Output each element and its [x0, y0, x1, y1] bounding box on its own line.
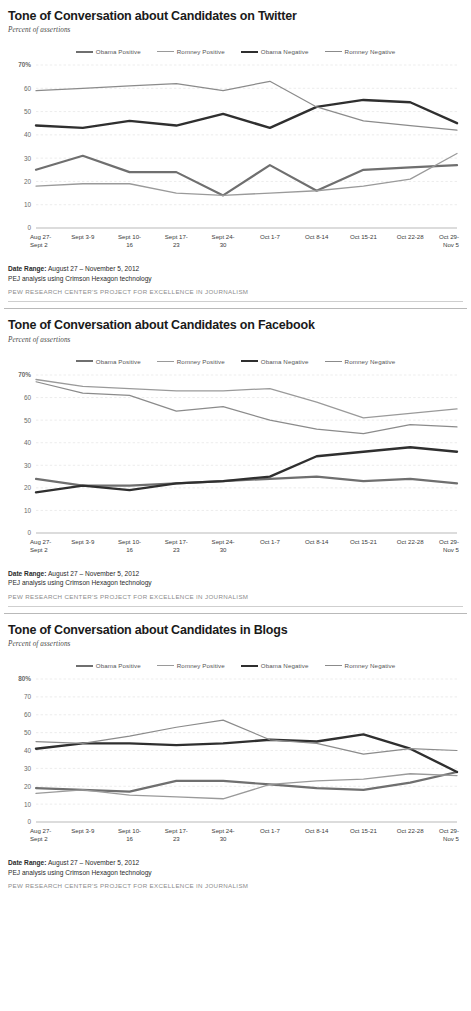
- y-axis-tick-label: 0: [27, 529, 31, 536]
- x-axis-tick-label: Oct 8-14: [305, 538, 329, 545]
- legend-swatch-romney-positive: [157, 665, 174, 666]
- x-axis-tick-label: Oct 22-28: [397, 827, 424, 834]
- x-axis-tick-label: Nov 5: [443, 835, 460, 842]
- legend-item-obama-negative[interactable]: Obama Negative: [241, 48, 309, 55]
- y-axis-tick-label: 20: [24, 783, 32, 790]
- x-axis-tick-label: 16: [126, 241, 133, 248]
- x-axis-tick-label: Oct 29-: [439, 233, 459, 240]
- chart-subtitle-facebook: Percent of assertions: [8, 336, 465, 344]
- chart-panel-blogs: Tone of Conversation about Candidates in…: [0, 623, 471, 891]
- chart-legend-blogs: Obama Positive Romney Positive Obama Neg…: [14, 662, 465, 669]
- panel-divider-1: [4, 308, 467, 309]
- plot-area-twitter: 010203040506070%Aug 27-Sept 2Sept 3-9Sep…: [6, 57, 465, 262]
- y-axis-tick-label: 40: [24, 132, 32, 139]
- legend-item-romney-positive[interactable]: Romney Positive: [157, 358, 225, 365]
- legend-item-romney-negative[interactable]: Romney Negative: [325, 48, 396, 55]
- y-axis-tick-label: 40: [24, 747, 32, 754]
- x-axis-tick-label: 30: [220, 835, 227, 842]
- x-axis-tick-label: Oct 8-14: [305, 827, 329, 834]
- legend-item-romney-positive[interactable]: Romney Positive: [157, 48, 225, 55]
- x-axis-tick-label: 30: [220, 241, 227, 248]
- x-axis-tick-label: 16: [126, 545, 133, 552]
- x-axis-tick-label: 23: [173, 835, 180, 842]
- methodology-blogs: PEJ analysis using Crimson Hexagon techn…: [8, 868, 465, 878]
- y-axis-tick-label: 70%: [18, 62, 31, 69]
- attribution-twitter: PEW RESEARCH CENTER'S PROJECT FOR EXCELL…: [8, 288, 465, 295]
- legend-swatch-romney-negative: [325, 51, 342, 52]
- date-range-value-facebook: August 27 – November 5, 2012: [48, 570, 139, 577]
- x-axis-tick-label: Oct 1-7: [260, 827, 281, 834]
- legend-swatch-obama-negative: [241, 360, 258, 362]
- x-axis-tick-label: Oct 29-: [439, 827, 459, 834]
- x-axis-tick-label: Sept 3-9: [71, 233, 95, 240]
- x-axis-tick-label: Oct 22-28: [397, 538, 424, 545]
- y-axis-tick-label: 50: [24, 108, 32, 115]
- source-block-facebook: Date Range: August 27 – November 5, 2012…: [8, 569, 465, 602]
- series-line-romney-negative: [36, 720, 457, 754]
- y-axis-tick-label: 50: [24, 416, 32, 423]
- legend-item-obama-positive[interactable]: Obama Positive: [76, 358, 141, 365]
- series-line-romney-negative: [36, 82, 457, 131]
- date-range-value-twitter: August 27 – November 5, 2012: [48, 265, 139, 272]
- x-axis-tick-label: Oct 15-21: [350, 827, 377, 834]
- x-axis-tick-label: Sept 17-: [165, 233, 188, 240]
- y-axis-tick-label: 60: [24, 394, 32, 401]
- legend-label-obama-positive: Obama Positive: [96, 48, 141, 55]
- legend-label-romney-positive: Romney Positive: [177, 48, 225, 55]
- x-axis-tick-label: 16: [126, 835, 133, 842]
- date-range-value-blogs: August 27 – November 5, 2012: [48, 859, 139, 866]
- legend-label-obama-negative: Obama Negative: [261, 662, 309, 669]
- x-axis-tick-label: Sept 24-: [212, 233, 235, 240]
- y-axis-tick-label: 30: [24, 462, 32, 469]
- legend-item-obama-negative[interactable]: Obama Negative: [241, 358, 309, 365]
- chart-legend-twitter: Obama Positive Romney Positive Obama Neg…: [14, 48, 465, 55]
- x-axis-tick-label: Nov 5: [443, 545, 460, 552]
- legend-label-romney-negative: Romney Negative: [345, 48, 396, 55]
- y-axis-tick-label: 10: [24, 507, 32, 514]
- legend-swatch-obama-positive: [76, 665, 93, 667]
- date-range-facebook: Date Range: August 27 – November 5, 2012: [8, 569, 465, 579]
- y-axis-tick-label: 10: [24, 801, 32, 808]
- legend-swatch-obama-positive: [76, 51, 93, 53]
- x-axis-tick-label: Sept 24-: [212, 538, 235, 545]
- y-axis-tick-label: 70%: [18, 371, 31, 378]
- x-axis-tick-label: Sept 10-: [118, 538, 141, 545]
- legend-swatch-obama-negative: [241, 665, 258, 667]
- legend-swatch-romney-negative: [325, 361, 342, 362]
- chart-legend-facebook: Obama Positive Romney Positive Obama Neg…: [14, 358, 465, 365]
- x-axis-tick-label: Oct 15-21: [350, 538, 377, 545]
- y-axis-tick-label: 0: [27, 225, 31, 232]
- attribution-facebook: PEW RESEARCH CENTER'S PROJECT FOR EXCELL…: [8, 593, 465, 600]
- legend-label-obama-negative: Obama Negative: [261, 48, 309, 55]
- x-axis-tick-label: Sept 10-: [118, 233, 141, 240]
- y-axis-tick-label: 50: [24, 729, 32, 736]
- y-axis-tick-label: 30: [24, 765, 32, 772]
- methodology-facebook: PEJ analysis using Crimson Hexagon techn…: [8, 578, 465, 588]
- x-axis-tick-label: Oct 22-28: [397, 233, 424, 240]
- date-range-label-twitter: Date Range:: [8, 265, 46, 272]
- date-range-label-facebook: Date Range:: [8, 570, 46, 577]
- y-axis-tick-label: 20: [24, 178, 32, 185]
- legend-label-obama-positive: Obama Positive: [96, 662, 141, 669]
- series-line-obama-positive: [36, 156, 457, 196]
- line-chart-twitter: 010203040506070%Aug 27-Sept 2Sept 3-9Sep…: [6, 57, 465, 262]
- legend-item-obama-positive[interactable]: Obama Positive: [76, 662, 141, 669]
- y-axis-tick-label: 20: [24, 484, 32, 491]
- legend-swatch-obama-negative: [241, 51, 258, 53]
- legend-label-obama-negative: Obama Negative: [261, 358, 309, 365]
- legend-item-romney-negative[interactable]: Romney Negative: [325, 662, 396, 669]
- series-line-romney-positive: [36, 154, 457, 196]
- line-chart-blogs: 01020304050607080%Aug 27-Sept 2Sept 3-9S…: [6, 671, 465, 856]
- source-block-twitter: Date Range: August 27 – November 5, 2012…: [8, 264, 465, 297]
- y-axis-tick-label: 10: [24, 201, 32, 208]
- x-axis-tick-label: 30: [220, 545, 227, 552]
- legend-item-romney-positive[interactable]: Romney Positive: [157, 662, 225, 669]
- legend-item-obama-negative[interactable]: Obama Negative: [241, 662, 309, 669]
- x-axis-tick-label: Sept 17-: [165, 827, 188, 834]
- date-range-label-blogs: Date Range:: [8, 859, 46, 866]
- legend-item-romney-negative[interactable]: Romney Negative: [325, 358, 396, 365]
- x-axis-tick-label: Oct 8-14: [305, 233, 329, 240]
- legend-item-obama-positive[interactable]: Obama Positive: [76, 48, 141, 55]
- y-axis-tick-label: 70: [24, 694, 32, 701]
- series-line-obama-negative: [36, 735, 457, 773]
